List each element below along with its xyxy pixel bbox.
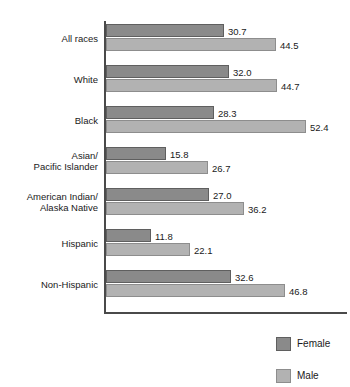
bar-female[interactable]: [106, 229, 151, 242]
category-label: White: [0, 74, 98, 85]
bar-female[interactable]: [106, 65, 229, 78]
bar-female[interactable]: [106, 106, 214, 119]
bar-group: White 32.0 44.7: [0, 65, 350, 93]
bar-value-male: 46.8: [289, 285, 308, 296]
bar-male[interactable]: [106, 38, 276, 51]
category-label: Asian/ Pacific Islander: [0, 150, 98, 172]
bar-male[interactable]: [106, 120, 306, 133]
legend-label-female: Female: [297, 338, 330, 350]
legend-item-male[interactable]: Male: [276, 366, 330, 386]
legend-item-female[interactable]: Female: [276, 334, 330, 354]
bar-value-male: 22.1: [194, 244, 213, 255]
bar-value-female: 11.8: [155, 230, 173, 241]
category-label: American Indian/ Alaska Native: [0, 191, 98, 213]
bar-value-female: 27.0: [213, 189, 232, 200]
bar-male[interactable]: [106, 79, 277, 92]
bar-value-female: 32.0: [233, 66, 252, 77]
bar-value-female: 28.3: [218, 107, 237, 118]
bar-value-female: 30.7: [228, 25, 247, 36]
bar-value-male: 52.4: [310, 121, 329, 132]
bar-male[interactable]: [106, 161, 208, 174]
category-label: Hispanic: [0, 238, 98, 249]
bar-pair: 30.7 44.5: [106, 24, 350, 52]
bar-pair: 32.6 46.8: [106, 270, 350, 298]
bar-value-male: 26.7: [212, 162, 231, 173]
bar-female[interactable]: [106, 24, 224, 37]
bar-value-female: 15.8: [170, 148, 189, 159]
bar-group: Hispanic 11.8 22.1: [0, 229, 350, 257]
bar-female[interactable]: [106, 188, 209, 201]
bar-pair: 15.8 26.7: [106, 147, 350, 175]
bar-pair: 27.0 36.2: [106, 188, 350, 216]
bar-male[interactable]: [106, 202, 244, 215]
bar-pair: 11.8 22.1: [106, 229, 350, 257]
bar-group: Non-Hispanic 32.6 46.8: [0, 270, 350, 298]
bar-group: All races 30.7 44.5: [0, 24, 350, 52]
bar-value-male: 44.7: [281, 80, 300, 91]
bar-value-female: 32.6: [235, 271, 254, 282]
bar-female[interactable]: [106, 270, 231, 283]
bar-pair: 32.0 44.7: [106, 65, 350, 93]
bar-group: American Indian/ Alaska Native 27.0 36.2: [0, 188, 350, 216]
bar-male[interactable]: [106, 243, 190, 256]
bar-value-male: 36.2: [248, 203, 267, 214]
bar-group: Black 28.3 52.4: [0, 106, 350, 134]
bar-pair: 28.3 52.4: [106, 106, 350, 134]
bar-value-male: 44.5: [280, 39, 299, 50]
category-label: Non-Hispanic: [0, 279, 98, 290]
bar-group: Asian/ Pacific Islander 15.8 26.7: [0, 147, 350, 175]
category-label: All races: [0, 33, 98, 44]
chart-legend: Female Male: [276, 334, 330, 387]
category-label: Black: [0, 115, 98, 126]
bar-male[interactable]: [106, 284, 285, 297]
legend-label-male: Male: [297, 370, 319, 382]
x-axis-line: [104, 312, 347, 314]
legend-swatch-male-icon: [276, 369, 291, 383]
legend-swatch-female-icon: [276, 337, 291, 351]
bar-female[interactable]: [106, 147, 166, 160]
